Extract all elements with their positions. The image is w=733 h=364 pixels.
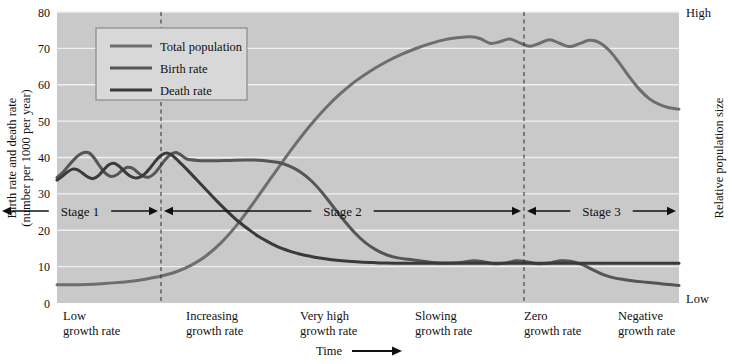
x-axis-title: Time: [316, 344, 342, 358]
category-label-line2: growth rate: [524, 324, 582, 338]
category-label-line1: Negative: [618, 309, 664, 323]
category-label-line1: Slowing: [415, 309, 457, 323]
category-label-line2: growth rate: [300, 324, 358, 338]
y-tick-label: 80: [38, 6, 50, 20]
y-tick-label: 60: [38, 78, 50, 92]
left-axis-title-line2: (number per 1000 per year): [19, 89, 33, 226]
stage-label: Stage 2: [323, 204, 362, 219]
chart-canvas: 01020304050607080 High Low Relative popu…: [0, 0, 733, 364]
x-axis-category-labels: Lowgrowth rateIncreasinggrowth rateVery …: [63, 309, 676, 338]
y-tick-label: 20: [38, 224, 50, 238]
right-axis-title: Relative population size: [712, 97, 726, 218]
stage-label: Stage 3: [582, 204, 621, 219]
y-tick-label: 50: [38, 115, 50, 129]
legend-label: Total population: [160, 40, 243, 54]
category-label-line2: growth rate: [415, 324, 473, 338]
category-label-line2: growth rate: [186, 324, 244, 338]
left-axis-title-line1: Birth rate and death rate: [5, 97, 19, 218]
y-axis-tick-labels: 01020304050607080: [38, 6, 50, 311]
legend-label: Birth rate: [160, 62, 208, 76]
y-tick-label: 0: [44, 297, 50, 311]
y-tick-label: 10: [38, 260, 50, 274]
category-label-line1: Low: [63, 309, 86, 323]
category-label-line2: growth rate: [63, 324, 121, 338]
chart-legend: Total populationBirth rateDeath rate: [96, 28, 247, 100]
demographic-transition-figure: 01020304050607080 High Low Relative popu…: [0, 0, 733, 364]
right-axis-low-label: Low: [686, 292, 709, 306]
y-tick-label: 70: [38, 42, 50, 56]
category-label-line1: Very high: [300, 309, 350, 323]
stage-label: Stage 1: [61, 204, 100, 219]
time-arrow-icon: [352, 347, 402, 356]
legend-label: Death rate: [160, 84, 212, 98]
category-label-line1: Increasing: [186, 309, 239, 323]
y-tick-label: 30: [38, 187, 50, 201]
right-axis-high-label: High: [686, 6, 712, 20]
category-label-line1: Zero: [524, 309, 548, 323]
y-tick-label: 40: [38, 151, 50, 165]
category-label-line2: growth rate: [618, 324, 676, 338]
